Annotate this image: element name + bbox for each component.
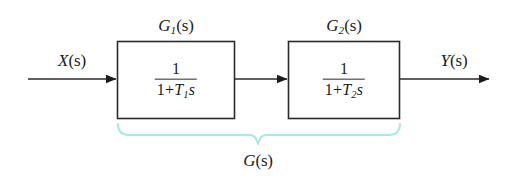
block-g1-argument: (s) — [176, 16, 193, 35]
block-g2-symbol: G — [326, 16, 338, 35]
block-g1-label: G1(s) — [158, 17, 193, 36]
block-g2-transfer-function: 1 1+T2s — [323, 60, 365, 101]
output-signal-label: Y(s) — [441, 52, 468, 69]
block-g2-denominator-tail: s — [357, 81, 363, 98]
group-argument: (s) — [255, 151, 272, 170]
group-brace — [118, 124, 400, 144]
block-g2-denominator: 1+T2s — [323, 80, 365, 101]
block-g1-denominator-var: T — [174, 81, 183, 98]
block-diagram: X(s) Y(s) G1(s) G2(s) 1 1+T1s 1 1+T2s G(… — [0, 0, 511, 179]
block-g1-transfer-function: 1 1+T1s — [155, 60, 197, 101]
block-g2-denominator-lead: 1+ — [325, 81, 342, 98]
output-signal-argument: (s) — [450, 51, 467, 70]
block-g1-denominator-tail: s — [189, 81, 195, 98]
input-signal-label: X(s) — [58, 52, 86, 69]
block-g2-numerator: 1 — [323, 60, 365, 79]
block-g1-denominator: 1+T1s — [155, 80, 197, 101]
input-signal-argument: (s) — [68, 51, 85, 70]
input-signal-symbol: X — [58, 51, 68, 70]
block-g1-numerator: 1 — [155, 60, 197, 79]
block-g2-denominator-var: T — [342, 81, 351, 98]
block-g1-symbol: G — [158, 16, 170, 35]
group-symbol: G — [243, 151, 255, 170]
block-g1-denominator-lead: 1+ — [157, 81, 174, 98]
block-g2-argument: (s) — [344, 16, 361, 35]
group-label: G(s) — [243, 152, 273, 169]
block-g2-label: G2(s) — [326, 17, 361, 36]
